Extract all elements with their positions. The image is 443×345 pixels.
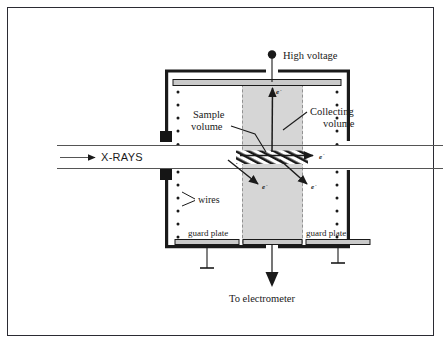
wire-column-left [177, 91, 180, 239]
bottom-plate-row [175, 240, 370, 245]
electron-label-up: e [276, 88, 279, 96]
wire-dot [177, 210, 180, 213]
wire-dot [177, 117, 180, 120]
guard-plate-right [306, 240, 370, 245]
guard-plate-right-label: guard plate [306, 228, 346, 238]
collecting-volume-label-line2: volume [323, 118, 355, 129]
wire-dot [336, 130, 339, 133]
wire-dot [336, 184, 339, 187]
xrays-label: X-RAYS [101, 151, 143, 163]
down-arrow-icon [266, 272, 279, 287]
high-voltage-electrode-plate [173, 80, 341, 86]
wire-dot [177, 197, 180, 200]
electron-label-down-left: e [262, 183, 265, 191]
electron-label-right: e [319, 153, 322, 161]
wire-dot [336, 197, 339, 200]
wire-dot [336, 91, 339, 94]
high-voltage-terminal-dot [268, 50, 276, 58]
to-electrometer-label: To electrometer [229, 293, 296, 304]
wires-leader-line [182, 192, 195, 206]
wire-dot [177, 171, 180, 174]
sample-volume-hatched-band [236, 151, 308, 165]
high-voltage-label: High voltage [283, 50, 338, 61]
guard-plate-left [175, 240, 239, 245]
wire-dot [177, 104, 180, 107]
wire-dot [177, 223, 180, 226]
electron-label-down-right: e [311, 183, 314, 191]
electron-charge-right: - [323, 151, 325, 156]
sample-volume-label-line2: volume [191, 121, 223, 132]
guard-plate-left-label: guard plate [188, 228, 228, 238]
collector-plate [243, 240, 302, 245]
collimator-blocks [160, 131, 172, 180]
sample-volume-label-line1: Sample [193, 109, 225, 120]
high-voltage-lead [268, 50, 276, 82]
wires-label: wires [198, 194, 220, 205]
ground-connection-left [200, 245, 214, 268]
figure-root: High voltage [0, 0, 443, 345]
wire-dot [336, 223, 339, 226]
wire-dot [336, 171, 339, 174]
wire-dot [177, 91, 180, 94]
wire-dot [177, 236, 180, 239]
electron-charge-down-right: - [315, 182, 317, 187]
wire-dot [177, 184, 180, 187]
collecting-volume-label-line1: Collecting [310, 106, 354, 117]
ionization-chamber-diagram: High voltage [0, 0, 443, 345]
wire-dot [177, 130, 180, 133]
electrometer-lead [266, 244, 279, 287]
wire-dot [336, 210, 339, 213]
electron-arrow-up [272, 88, 273, 152]
